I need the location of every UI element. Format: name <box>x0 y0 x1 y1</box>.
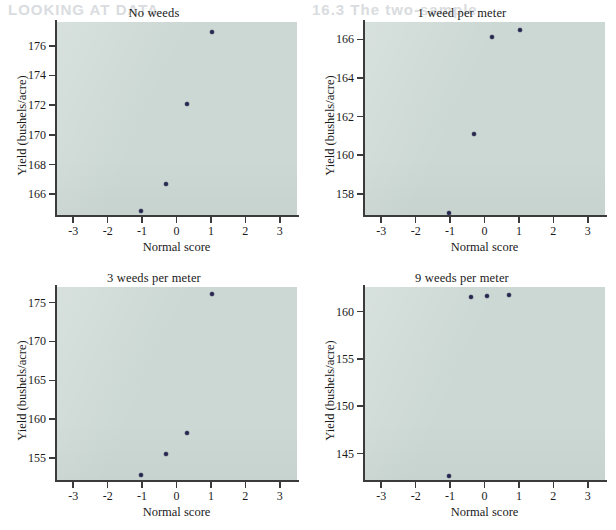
y-tick-label: 170 <box>28 127 46 142</box>
y-tick <box>49 418 55 420</box>
data-point <box>518 28 522 32</box>
x-tick-label: -3 <box>376 224 386 239</box>
data-point <box>472 132 476 136</box>
x-tick-label: -2 <box>103 489 113 504</box>
x-tick-label: -2 <box>411 489 421 504</box>
plot-area <box>56 22 297 215</box>
x-tick <box>380 217 382 223</box>
y-tick-label: 155 <box>336 351 354 366</box>
y-tick-label: 166 <box>336 32 354 47</box>
y-tick-label: 164 <box>336 70 354 85</box>
y-tick-label: 162 <box>336 109 354 124</box>
y-tick <box>49 380 55 382</box>
y-axis <box>363 285 365 482</box>
y-axis <box>55 285 57 482</box>
x-tick-label: 0 <box>482 489 488 504</box>
x-tick-label: 2 <box>550 224 556 239</box>
data-point <box>210 30 214 34</box>
y-tick-label: 160 <box>336 148 354 163</box>
x-tick <box>141 482 143 488</box>
x-tick-label: 3 <box>585 224 591 239</box>
y-tick-label: 165 <box>28 373 46 388</box>
y-tick <box>357 311 363 313</box>
y-tick-label: 150 <box>336 399 354 414</box>
y-tick-label: 155 <box>28 451 46 466</box>
chart-panel: 9 weeds per meter145150155160-3-2-10123N… <box>308 265 616 530</box>
y-tick <box>49 457 55 459</box>
y-tick-label: 166 <box>28 187 46 202</box>
chart-panel: 1 weed per meter158160162164166-3-2-1012… <box>308 0 616 265</box>
x-tick-label: -1 <box>445 489 455 504</box>
x-tick-label: 3 <box>277 224 283 239</box>
x-tick <box>415 482 417 488</box>
x-tick <box>141 217 143 223</box>
x-tick <box>484 217 486 223</box>
x-tick <box>553 217 555 223</box>
x-tick-label: -3 <box>68 489 78 504</box>
x-tick <box>518 482 520 488</box>
x-tick-label: 0 <box>174 224 180 239</box>
y-tick-label: 174 <box>28 68 46 83</box>
x-tick-label: 0 <box>482 224 488 239</box>
x-tick-label: 2 <box>242 489 248 504</box>
data-point <box>210 292 214 296</box>
y-tick <box>49 302 55 304</box>
x-tick-label: 2 <box>242 224 248 239</box>
y-tick <box>357 77 363 79</box>
y-tick-label: 168 <box>28 157 46 172</box>
x-tick-label: -2 <box>103 224 113 239</box>
y-tick-label: 175 <box>28 295 46 310</box>
x-tick-label: -3 <box>376 489 386 504</box>
x-tick <box>380 482 382 488</box>
x-axis-title: Normal score <box>364 240 605 255</box>
x-axis-title: Normal score <box>364 505 605 520</box>
y-axis <box>363 20 365 217</box>
data-point <box>507 293 511 297</box>
x-tick <box>279 482 281 488</box>
y-tick <box>49 341 55 343</box>
y-axis-title: Yield (bushels/acre) <box>323 51 338 201</box>
x-tick <box>245 482 247 488</box>
plot-area <box>364 287 605 480</box>
x-tick <box>107 217 109 223</box>
panel-title: 3 weeds per meter <box>0 271 308 286</box>
x-tick <box>587 482 589 488</box>
y-tick <box>357 116 363 118</box>
x-tick <box>279 217 281 223</box>
x-tick-label: 1 <box>516 489 522 504</box>
data-point <box>185 102 189 106</box>
x-tick <box>176 482 178 488</box>
x-tick <box>176 217 178 223</box>
y-tick-label: 170 <box>28 334 46 349</box>
data-point <box>164 452 168 456</box>
x-tick <box>587 217 589 223</box>
y-tick-label: 172 <box>28 98 46 113</box>
x-tick <box>449 482 451 488</box>
panel-title: 1 weed per meter <box>308 6 616 21</box>
x-tick <box>245 217 247 223</box>
chart-grid: No weeds166168170172174176-3-2-10123Norm… <box>0 0 616 530</box>
y-axis-title: Yield (bushels/acre) <box>323 316 338 466</box>
y-tick <box>49 45 55 47</box>
y-tick-label: 176 <box>28 38 46 53</box>
x-tick <box>415 217 417 223</box>
data-point <box>469 295 473 299</box>
x-tick <box>210 482 212 488</box>
panel-title: 9 weeds per meter <box>308 271 616 286</box>
y-tick <box>357 193 363 195</box>
y-tick <box>357 453 363 455</box>
x-axis-title: Normal score <box>56 240 297 255</box>
data-point <box>139 209 143 213</box>
data-point <box>139 473 143 477</box>
y-tick <box>49 75 55 77</box>
x-tick <box>210 217 212 223</box>
y-tick-label: 160 <box>28 412 46 427</box>
y-axis-title: Yield (bushels/acre) <box>15 316 30 466</box>
x-tick-label: -1 <box>445 224 455 239</box>
y-tick <box>49 104 55 106</box>
y-tick <box>49 134 55 136</box>
y-tick <box>357 405 363 407</box>
x-tick <box>72 217 74 223</box>
plot-area <box>364 22 605 215</box>
y-tick <box>49 193 55 195</box>
